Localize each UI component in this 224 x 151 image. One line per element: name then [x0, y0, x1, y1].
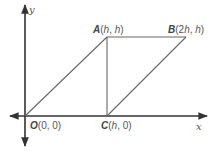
- segment-OA: [25, 37, 107, 116]
- point-label-O: O(0, 0): [30, 120, 61, 131]
- x-axis-label: x: [196, 121, 202, 132]
- segment-BC: [107, 37, 186, 116]
- diagram-canvas: y x A(h, h) B(2h, h) O(0, 0) C(h, 0): [0, 0, 224, 151]
- point-label-B: B(2h, h): [168, 24, 204, 35]
- y-axis-label: y: [28, 4, 35, 15]
- point-label-A: A(h, h): [92, 24, 124, 35]
- point-label-C: C(h, 0): [101, 120, 132, 131]
